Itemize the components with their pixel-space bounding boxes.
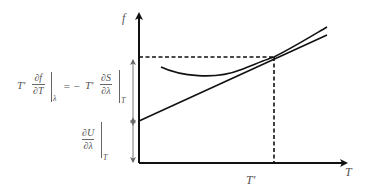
- free-energy-curve: [161, 27, 327, 76]
- rhs-subscript: T: [121, 97, 125, 105]
- rhs-evaluation-bar: [119, 70, 120, 103]
- dlambda-denominator: ∂λ: [82, 139, 93, 151]
- lhs-coefficient: T′: [17, 80, 26, 91]
- y-axis-label: f: [122, 12, 125, 24]
- bottom-evaluation-bar: [101, 122, 102, 158]
- lhs-evaluation-bar: [51, 72, 52, 102]
- rhs-coefficient: T′: [85, 80, 94, 91]
- du-dlambda-fraction: ∂U ∂λ: [81, 128, 95, 151]
- lhs-subscript: λ: [53, 95, 56, 103]
- tangent-line: [139, 35, 327, 121]
- equals-minus: = −: [63, 81, 81, 92]
- lhs-numerator: ∂f: [33, 73, 43, 84]
- rhs-denominator: ∂λ: [100, 84, 111, 96]
- rhs-fraction: ∂S ∂λ: [100, 73, 112, 96]
- lhs-denominator: ∂T: [32, 84, 45, 96]
- x-axis-label: T: [345, 166, 352, 178]
- rhs-numerator: ∂S: [100, 73, 112, 84]
- t-prime-label: T′: [246, 174, 255, 186]
- bottom-subscript: T: [103, 154, 107, 162]
- lhs-fraction: ∂f ∂T: [32, 73, 45, 96]
- du-numerator: ∂U: [81, 128, 95, 139]
